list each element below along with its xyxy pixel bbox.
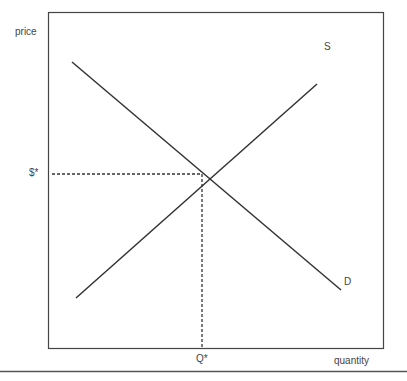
- demand-label: D: [344, 276, 351, 287]
- supply-demand-diagram: [0, 0, 407, 381]
- demand-curve: [72, 62, 341, 290]
- supply-label: S: [324, 41, 331, 52]
- plot-frame: [49, 13, 384, 349]
- equilibrium-price-label: $*: [29, 167, 38, 178]
- y-axis-label: price: [15, 26, 37, 37]
- supply-curve: [76, 84, 317, 298]
- equilibrium-quantity-label: Q*: [196, 353, 208, 364]
- x-axis-label: quantity: [334, 355, 369, 366]
